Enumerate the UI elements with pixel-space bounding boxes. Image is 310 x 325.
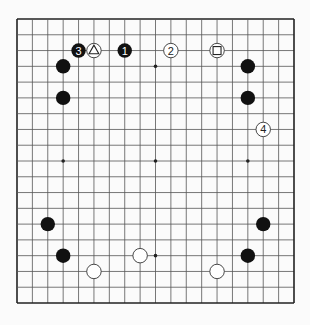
white-stone [133,248,147,262]
black-stone: 1 [117,43,131,57]
white-stone [87,43,101,57]
move-number: 3 [75,45,81,57]
black-stone [241,59,255,73]
star-point [154,65,158,69]
go-board: 3124 [0,0,310,325]
black-stone [56,248,70,262]
white-stone [210,43,224,57]
star-point [154,159,158,163]
move-number: 1 [122,45,128,57]
move-number: 4 [260,123,266,135]
black-stone [56,91,70,105]
black-stone [241,91,255,105]
move-number: 2 [168,45,174,57]
black-stone: 3 [71,43,85,57]
star-point [246,159,250,163]
white-stone [87,264,101,278]
black-stone [241,248,255,262]
star-point [61,159,65,163]
black-stone [256,217,270,231]
white-stone: 4 [256,122,270,136]
black-stone [56,59,70,73]
white-stone: 2 [164,43,178,57]
star-point [154,254,158,258]
white-stone [210,264,224,278]
black-stone [41,217,55,231]
